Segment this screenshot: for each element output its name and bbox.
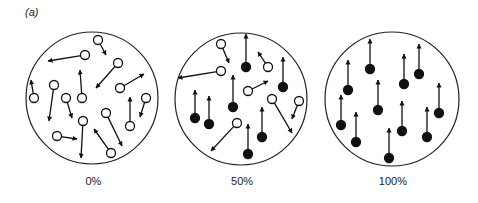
aligned-spin-icon bbox=[415, 44, 424, 79]
random-spin-icon bbox=[178, 67, 226, 79]
random-spin-icon bbox=[94, 129, 116, 158]
aligned-spin-icon bbox=[258, 107, 267, 142]
aligned-spin-icon bbox=[337, 95, 346, 130]
aligned-spin-icon bbox=[398, 101, 407, 136]
aligned-spin-icon bbox=[400, 54, 409, 89]
random-spin-icon bbox=[62, 94, 73, 119]
aligned-spin-icon bbox=[366, 39, 375, 74]
aligned-spin-icon bbox=[279, 57, 288, 92]
random-spin-icon bbox=[49, 81, 59, 122]
random-spin-icon bbox=[258, 52, 273, 72]
spin-alignment-diagram bbox=[0, 0, 478, 203]
random-spin-icon bbox=[292, 97, 304, 120]
random-spin-icon bbox=[78, 70, 87, 103]
random-spin-icon bbox=[140, 94, 151, 118]
aligned-spin-icon bbox=[242, 34, 251, 72]
random-spin-icon bbox=[48, 51, 90, 62]
random-spin-icon bbox=[211, 119, 242, 152]
panel-percentage-label: 50% bbox=[231, 175, 253, 187]
aligned-spin-icon bbox=[191, 90, 200, 123]
panel-percentage-label: 0% bbox=[85, 175, 101, 187]
random-spin-icon bbox=[268, 95, 293, 134]
random-spin-icon bbox=[116, 74, 145, 93]
aligned-spin-icon bbox=[374, 80, 383, 115]
random-spin-icon bbox=[79, 117, 88, 159]
aligned-spin-icon bbox=[435, 83, 444, 118]
random-spin-icon bbox=[94, 36, 107, 56]
random-spin-icon bbox=[53, 132, 78, 141]
aligned-spin-icon bbox=[423, 107, 432, 142]
panel-0 bbox=[26, 32, 158, 164]
random-spin-icon bbox=[244, 81, 269, 96]
panel-1 bbox=[175, 33, 307, 165]
aligned-spin-icon bbox=[352, 112, 361, 147]
random-spin-icon bbox=[102, 109, 123, 147]
random-spin-icon bbox=[126, 97, 135, 131]
aligned-spin-icon bbox=[229, 75, 238, 112]
aligned-spin-icon bbox=[244, 124, 253, 159]
aligned-spin-icon bbox=[344, 60, 353, 95]
random-spin-icon bbox=[217, 40, 230, 64]
panel-2 bbox=[325, 32, 459, 166]
random-spin-icon bbox=[30, 80, 39, 103]
panel-percentage-label: 100% bbox=[379, 175, 407, 187]
aligned-spin-icon bbox=[385, 128, 394, 163]
aligned-spin-icon bbox=[205, 96, 214, 129]
sample-boundary bbox=[26, 32, 158, 164]
